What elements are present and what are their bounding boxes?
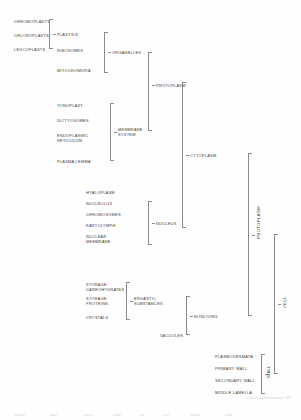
node-label-plastids: PLASTIDS <box>57 32 78 37</box>
scan-artifact <box>286 396 291 399</box>
leaf-label-dictyosomes: DICTYOSOMES <box>57 118 89 123</box>
leaf-label-storage-proteins: STORAGE PROTEINS <box>86 296 108 307</box>
leaf-label-primary-wall: PRIMARY WALL <box>215 366 247 371</box>
node-label-cytoplasm: CYTOPLASM <box>190 153 216 158</box>
nib-nonliving <box>190 316 193 317</box>
leaf-label-endoplasmic-reticulum: ENDOPLASMIC RETICULUM <box>57 133 88 144</box>
cell-hierarchy-diagram: CHROMOPLASTS CHLOROPLASTS LEUCOPLASTS PL… <box>0 0 301 420</box>
leaf-label-storage-carbohydrates: STORAGE CARBOHYDRATES <box>86 282 124 293</box>
node-label-membrane-system: MEMBRANE SYSTEM <box>118 127 143 138</box>
scan-artifact <box>14 414 25 416</box>
scan-artifact <box>163 414 169 416</box>
nib-ergastic-substances <box>130 301 133 302</box>
node-label-organelles: ORGANELLES <box>112 50 141 55</box>
leaf-label-karyolymph: KARYOLYMPH <box>86 223 115 228</box>
scan-artifact <box>50 414 57 416</box>
node-label-nonliving: NONLIVING <box>194 314 218 319</box>
node-label-nucleus: NUCLEUS <box>156 221 177 226</box>
leaf-label-middle-lamella: MIDDLE LAMELLA <box>215 390 252 395</box>
leaf-label-chloroplasts: CHLOROPLASTS <box>14 33 49 38</box>
leaf-label-leucoplasts: LEUCOPLASTS <box>14 47 45 52</box>
leaf-label-chromoplasts: CHROMOPLASTS <box>14 19 50 24</box>
leaf-label-hyaloplasm: HYALOPLASM <box>86 190 115 195</box>
leaf-label-vacuoles: VACUOLES <box>160 333 183 338</box>
leaf-label-plasmodesmata: PLASMODESMATA <box>215 354 253 359</box>
leaf-label-plasma-lemma: PLASMA LEMMA <box>57 159 91 164</box>
leaf-label-mitochondria: MITOCHONDRIA <box>57 68 91 73</box>
nib-cell <box>278 304 281 305</box>
leaf-label-nucleolus: NUCLEOLUS <box>86 201 112 206</box>
scan-artifact <box>225 414 232 416</box>
scan-artifact <box>140 414 144 416</box>
nib-plastids <box>53 34 56 35</box>
node-label-protoplasm-outer: PROTOPLASM <box>256 206 261 239</box>
scan-artifact <box>190 414 200 416</box>
nib-protoplasm-mid <box>152 85 155 86</box>
bracket-protoplasm-mid <box>148 52 152 131</box>
nib-membrane-system <box>114 132 117 133</box>
nib-cytoplasm <box>186 155 189 156</box>
leaf-label-chromosomes: CHROMOSOMES <box>86 212 121 217</box>
leaf-label-secondary-wall: SECONDARY WALL <box>215 378 255 383</box>
scan-artifact <box>84 414 93 416</box>
leaf-label-ribosomes: RIBOSOMES <box>57 48 83 53</box>
scan-artifact <box>113 414 121 416</box>
leaf-label-tonoplast: TONOPLAST <box>57 103 83 108</box>
scan-artifact <box>246 397 284 399</box>
nib-organelles <box>108 52 111 53</box>
node-label-cell: CELL <box>282 296 287 308</box>
node-label-ergastic-substances: ERGASTIC SUBSTANCES <box>134 296 163 307</box>
leaf-label-crystals: CRYSTALS <box>86 315 108 320</box>
leaf-label-nuclear-membrane: NUCLEAR MEMBRANE <box>86 234 111 245</box>
node-label-wall: WALL <box>266 365 271 378</box>
nib-protoplasm-outer <box>252 235 255 236</box>
nib-nucleus <box>152 223 155 224</box>
